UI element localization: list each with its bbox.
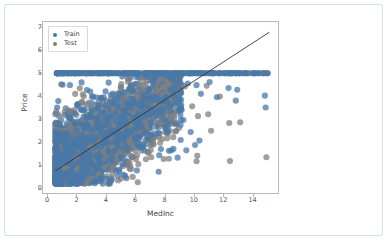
- x-tick-label: 14: [245, 197, 261, 204]
- plot-area: Train Test: [42, 21, 279, 194]
- x-tick-label: 4: [98, 197, 114, 204]
- x-tick-label: 8: [157, 197, 173, 204]
- x-axis-title: MedInc: [42, 209, 279, 218]
- chart-card: 01234567 Train Test: [4, 4, 383, 236]
- chart-card-inner: 01234567 Train Test: [6, 6, 381, 234]
- x-tick-label: 0: [39, 197, 55, 204]
- x-tick-label: 2: [68, 197, 84, 204]
- y-axis-title: Price: [20, 73, 29, 133]
- x-tick-label: 12: [215, 197, 231, 204]
- legend-marker-test: [53, 42, 57, 46]
- x-tick-label: 10: [186, 197, 202, 204]
- legend-marker-train: [53, 33, 57, 37]
- legend-label-test: Test: [64, 40, 77, 47]
- x-tick-label: 6: [127, 197, 143, 204]
- legend-item-test: Test: [53, 39, 80, 48]
- legend-label-train: Train: [64, 31, 80, 38]
- scatter-plot-figure: 01234567 Train Test: [6, 6, 381, 234]
- x-axis-tick-labels: 02468101214: [42, 197, 279, 209]
- legend-item-train: Train: [53, 30, 80, 39]
- chart-legend: Train Test: [48, 26, 88, 52]
